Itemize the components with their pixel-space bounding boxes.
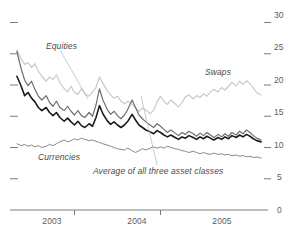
series-line-average-of-all-three-asset-classes <box>17 76 261 142</box>
series-label-currencies: Currencies <box>38 152 80 162</box>
x-tick-label-2005: 2005 <box>203 216 241 226</box>
y-tick-label-10: 10 <box>274 140 284 150</box>
axis-ticks <box>10 23 271 216</box>
series-line-equities <box>17 50 261 114</box>
x-tick-label-2003: 2003 <box>33 216 71 226</box>
series-line-swaps <box>17 51 261 140</box>
annotation-leader-lines <box>60 50 157 165</box>
y-tick-label-20: 20 <box>274 75 284 85</box>
chart-plot-area <box>0 0 291 235</box>
series-label-average: Average of all three asset classes <box>93 166 223 176</box>
y-tick-label-0: 0 <box>277 205 282 215</box>
x-tick-label-2004: 2004 <box>118 216 156 226</box>
series-label-equities: Equities <box>46 41 77 51</box>
leader-line-2 <box>141 96 157 165</box>
chart-container: 30 25 20 15 10 5 0 2003 2004 2005 Equiti… <box>0 0 291 235</box>
y-tick-label-30: 30 <box>274 10 284 20</box>
y-tick-label-15: 15 <box>274 107 284 117</box>
y-tick-label-25: 25 <box>274 42 284 52</box>
series-label-swaps: Swaps <box>205 67 231 77</box>
y-tick-label-5: 5 <box>277 172 282 182</box>
